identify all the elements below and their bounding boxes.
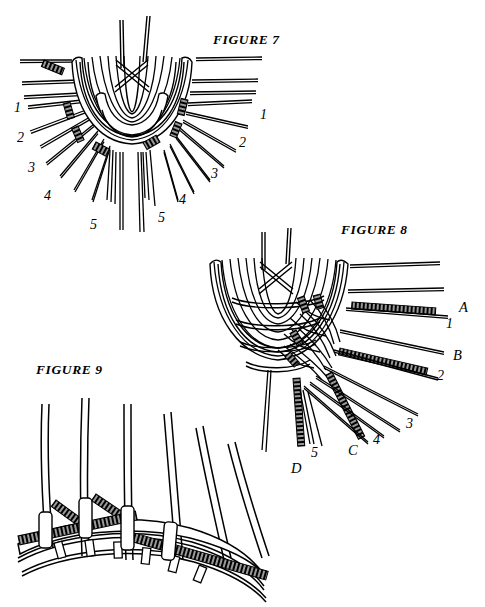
- fig9-hatched-weavers: [18, 494, 268, 580]
- fig7-label-right-5: 5: [158, 211, 165, 225]
- figure-7-title: FIGURE 7: [213, 32, 280, 48]
- fig7-cross-knot: [115, 60, 149, 92]
- figure-7-artwork: [20, 16, 262, 232]
- fig8-label-c: C: [348, 443, 358, 458]
- fig7-label-left-3: 3: [28, 161, 35, 175]
- fig7-label-right-4: 4: [179, 193, 186, 207]
- fig8-label-2: 2: [437, 369, 444, 383]
- fig7-label-left-1: 1: [14, 101, 21, 115]
- figure-9-artwork: [18, 398, 269, 602]
- fig7-label-left-4: 4: [44, 189, 51, 203]
- fig8-label-a: A: [459, 300, 468, 315]
- fig8-label-b: B: [453, 348, 462, 363]
- fig8-label-4: 4: [373, 433, 380, 447]
- fig8-upright-stakes: [262, 228, 291, 270]
- fig7-hanging-stakes: [107, 150, 155, 232]
- figures-artwork: [0, 0, 485, 607]
- fig7-label-right-1: 1: [260, 108, 267, 122]
- fig8-label-d: D: [291, 461, 301, 476]
- illustration-plate: FIGURE 7 FIGURE 8 FIGURE 9 1 2 3 4 5 1 2…: [0, 0, 485, 607]
- weaver-A: [352, 302, 436, 315]
- fig7-label-right-2: 2: [239, 136, 246, 150]
- fig8-right-spokes: [304, 262, 448, 444]
- fig8-hanging-stakes: [262, 370, 322, 452]
- fig8-label-5: 5: [311, 446, 318, 460]
- fig8-hatched-weavers: [285, 294, 436, 446]
- fig7-label-left-5: 5: [90, 218, 97, 232]
- fig7-label-right-3: 3: [211, 167, 218, 181]
- figure-8-title: FIGURE 8: [341, 222, 408, 238]
- fig8-label-1: 1: [446, 317, 453, 331]
- fig8-label-3: 3: [406, 417, 413, 431]
- fig8-weave-body: [210, 260, 348, 360]
- figure-9-title: FIGURE 9: [36, 362, 103, 378]
- fig9-stakes: [41, 398, 269, 562]
- fig7-label-left-2: 2: [17, 131, 24, 145]
- weaver-D: [293, 378, 305, 446]
